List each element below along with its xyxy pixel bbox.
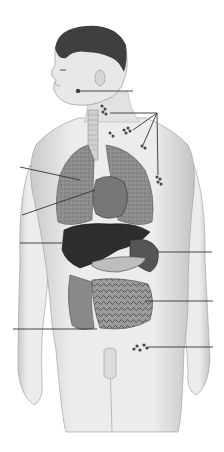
anatomy-diagram [0, 0, 224, 452]
anatomy-illustration [0, 0, 224, 452]
intestines [68, 275, 152, 329]
genitals [104, 348, 116, 379]
heart [93, 176, 128, 218]
